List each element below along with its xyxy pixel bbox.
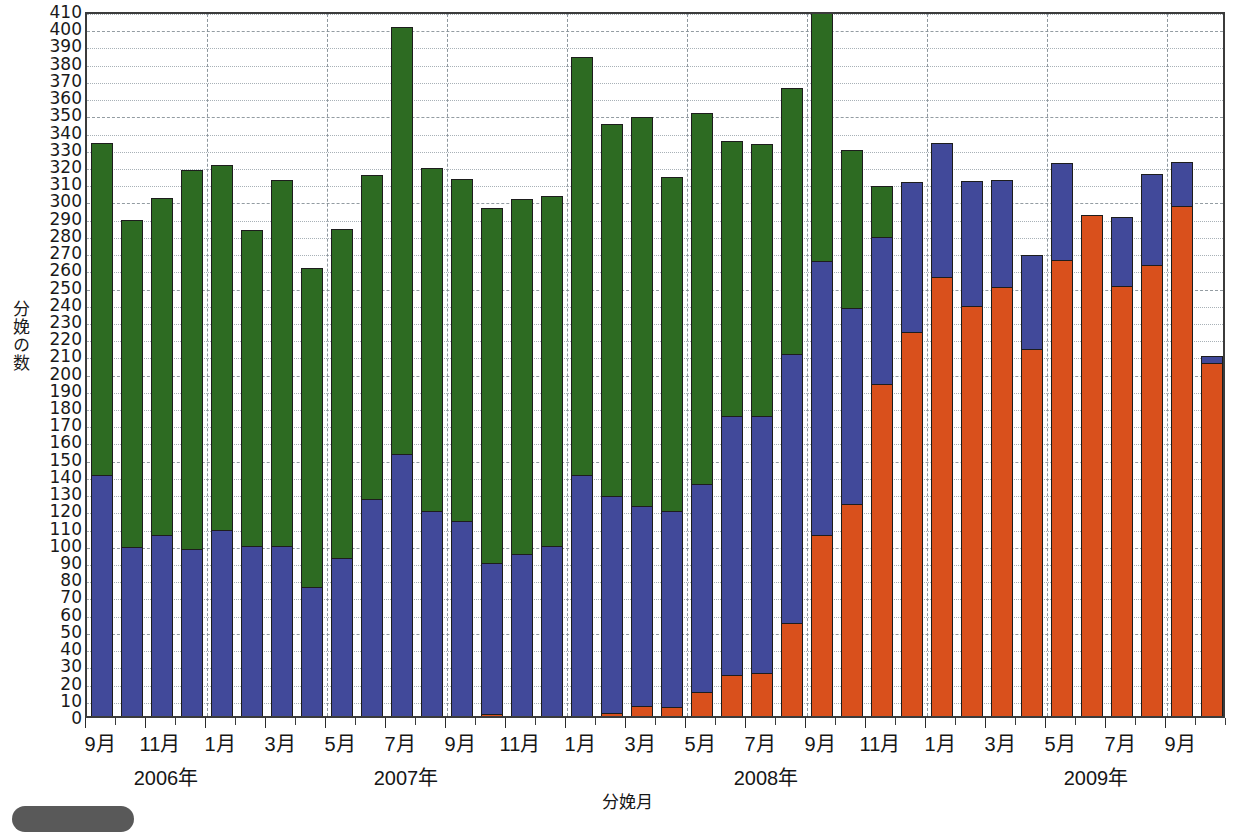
bar-segment-orange [631, 706, 653, 716]
bar-column[interactable] [691, 113, 713, 716]
bar-segment-green [751, 144, 773, 416]
bar-column[interactable] [481, 208, 503, 716]
bar-column[interactable] [781, 88, 803, 717]
bar-segment-blue [1201, 356, 1223, 363]
bar-column[interactable] [661, 177, 683, 716]
bar-segment-orange [901, 332, 923, 716]
bar-column[interactable] [1201, 356, 1223, 716]
bar-segment-blue [331, 558, 353, 716]
x-axis-tick-marks [85, 718, 1225, 728]
bar-segment-orange [991, 287, 1013, 716]
x-tick-mark [775, 718, 776, 725]
bar-segment-green [151, 198, 173, 536]
bar-segment-green [421, 168, 443, 511]
bar-column[interactable] [601, 124, 623, 716]
x-axis-month-label: 7月 [384, 728, 415, 757]
bar-column[interactable] [1141, 174, 1163, 716]
x-tick-mark [1195, 718, 1196, 725]
bar-segment-orange [481, 714, 503, 716]
bar-segment-green [721, 141, 743, 417]
x-tick-mark [265, 718, 266, 728]
bar-segment-green [841, 150, 863, 308]
bar-segment-blue [931, 143, 953, 277]
bar-column[interactable] [871, 186, 893, 716]
bar-column[interactable] [361, 175, 383, 716]
bar-column[interactable] [91, 143, 113, 716]
bar-column[interactable] [541, 196, 563, 716]
bar-column[interactable] [121, 220, 143, 716]
bar-column[interactable] [271, 180, 293, 716]
bar-column[interactable] [931, 143, 953, 716]
bar-column[interactable] [511, 199, 533, 716]
bar-segment-blue [1051, 163, 1073, 259]
bar-column[interactable] [811, 12, 833, 716]
bar-segment-blue [631, 506, 653, 706]
x-tick-mark [925, 718, 926, 728]
bar-column[interactable] [751, 144, 773, 716]
bar-segment-green [91, 143, 113, 475]
bar-segment-green [121, 220, 143, 547]
bar-segment-blue [391, 454, 413, 716]
bar-segment-green [241, 230, 263, 545]
x-axis-month-label: 1月 [564, 728, 595, 757]
bar-segment-blue [421, 511, 443, 716]
bar-segment-green [871, 186, 893, 238]
bar-column[interactable] [151, 198, 173, 716]
bar-segment-blue [1141, 174, 1163, 265]
bar-segment-green [181, 170, 203, 549]
bar-column[interactable] [571, 57, 593, 717]
bar-segment-blue [751, 416, 773, 673]
x-tick-mark [235, 718, 236, 725]
x-tick-mark [205, 718, 206, 728]
bar-column[interactable] [721, 141, 743, 716]
bar-segment-blue [1171, 162, 1193, 207]
bar-segment-green [511, 199, 533, 554]
x-tick-mark [535, 718, 536, 725]
bar-column[interactable] [1171, 162, 1193, 716]
bar-series-group [87, 14, 1223, 716]
footer-badge [12, 806, 134, 832]
bar-column[interactable] [391, 27, 413, 716]
bar-segment-blue [361, 499, 383, 716]
bar-column[interactable] [1051, 163, 1073, 716]
x-axis-month-label: 3月 [624, 728, 655, 757]
bar-column[interactable] [241, 230, 263, 716]
bar-column[interactable] [1021, 255, 1043, 716]
bar-segment-blue [901, 182, 923, 332]
x-tick-mark [985, 718, 986, 728]
x-axis-year-label: 2008年 [734, 762, 799, 791]
x-axis-month-label: 9月 [84, 728, 115, 757]
bar-column[interactable] [181, 170, 203, 716]
bar-column[interactable] [901, 182, 923, 716]
x-tick-mark [325, 718, 326, 728]
x-tick-mark [415, 718, 416, 725]
x-axis-month-label: 7月 [744, 728, 775, 757]
bar-segment-green [301, 268, 323, 587]
bar-column[interactable] [421, 168, 443, 716]
bar-segment-orange [811, 535, 833, 716]
bar-column[interactable] [211, 165, 233, 716]
bar-segment-green [541, 196, 563, 546]
bar-segment-orange [721, 675, 743, 716]
bar-column[interactable] [631, 117, 653, 716]
bar-column[interactable] [841, 149, 863, 716]
bar-column[interactable] [1111, 217, 1133, 716]
bar-segment-blue [721, 416, 743, 674]
bar-segment-green [361, 175, 383, 499]
bar-column[interactable] [331, 229, 353, 716]
bar-column[interactable] [301, 268, 323, 716]
x-tick-mark [445, 718, 446, 728]
bar-column[interactable] [1081, 215, 1103, 716]
x-axis-month-label: 1月 [204, 728, 235, 757]
bar-column[interactable] [451, 179, 473, 716]
x-axis-month-label: 5月 [684, 728, 715, 757]
x-tick-mark [685, 718, 686, 728]
bar-segment-orange [841, 504, 863, 716]
x-tick-mark [1045, 718, 1046, 728]
bar-segment-green [481, 208, 503, 563]
bar-column[interactable] [991, 180, 1013, 716]
bar-column[interactable] [961, 180, 983, 716]
x-axis-month-label: 1月 [924, 728, 955, 757]
bar-segment-green [811, 12, 833, 261]
y-tick-label: 0 [24, 710, 82, 727]
